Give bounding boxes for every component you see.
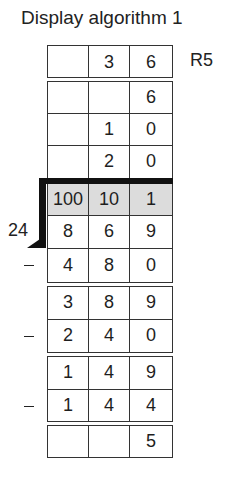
quotient-row-0: 3 6 — [47, 45, 173, 78]
minus-sign — [24, 406, 34, 407]
place-value-header-row: 100 10 1 — [47, 184, 173, 215]
minus-sign — [24, 336, 34, 337]
cell — [89, 81, 130, 113]
cell: 8 — [89, 286, 130, 319]
cell: 4 — [89, 319, 130, 352]
diagram-title: Display algorithm 1 — [21, 6, 183, 30]
cell: 1 — [89, 113, 130, 145]
cell: 9 — [130, 356, 173, 389]
work-row-4: 1 4 9 — [47, 356, 173, 389]
place-value-tens: 10 — [89, 184, 130, 215]
cell: 5 — [130, 425, 173, 457]
division-bracket-flare — [27, 239, 40, 248]
work-row-2: 3 8 9 — [47, 286, 173, 319]
place-value-hundreds: 100 — [47, 184, 89, 215]
cell: 1 — [47, 389, 89, 421]
cell: 3 — [47, 286, 89, 319]
double-line — [47, 421, 173, 422]
cell — [47, 145, 89, 178]
cell — [47, 113, 89, 145]
cell: 2 — [47, 319, 89, 352]
cell: 0 — [130, 248, 173, 282]
cell — [89, 425, 130, 457]
double-line — [47, 77, 173, 78]
division-bracket-top — [39, 178, 173, 184]
cell: 0 — [130, 145, 173, 178]
cell — [47, 81, 89, 113]
cell: 3 — [89, 46, 130, 78]
cell: 4 — [89, 356, 130, 389]
cell: 9 — [130, 286, 173, 319]
place-value-ones: 1 — [130, 184, 173, 215]
register-label: R5 — [190, 50, 213, 71]
cell: 6 — [89, 215, 130, 248]
cell: 1 — [47, 356, 89, 389]
division-bracket-left — [39, 178, 46, 248]
double-line — [47, 352, 173, 353]
cell: 4 — [130, 389, 173, 421]
quotient-row-1: 6 — [47, 81, 173, 113]
work-row-0: 8 6 9 — [47, 215, 173, 248]
cell: 2 — [89, 145, 130, 178]
cell: 8 — [47, 215, 89, 248]
divisor-label: 24 — [8, 220, 28, 241]
cell — [47, 425, 89, 457]
cell: 6 — [130, 81, 173, 113]
cell — [47, 46, 89, 78]
cell: 9 — [130, 215, 173, 248]
cell: 4 — [47, 248, 89, 282]
cell: 6 — [130, 46, 173, 78]
cell: 4 — [89, 389, 130, 421]
work-row-6-remainder: 5 — [47, 425, 173, 458]
work-row-3: 2 4 0 — [47, 319, 173, 352]
cell: 8 — [89, 248, 130, 282]
cell: 0 — [130, 113, 173, 145]
quotient-row-2: 1 0 — [47, 113, 173, 145]
cell: 0 — [130, 319, 173, 352]
work-row-1: 4 8 0 — [47, 248, 173, 282]
work-row-5: 1 4 4 — [47, 389, 173, 421]
minus-sign — [24, 265, 34, 266]
quotient-row-3: 2 0 — [47, 145, 173, 178]
double-line — [47, 282, 173, 283]
